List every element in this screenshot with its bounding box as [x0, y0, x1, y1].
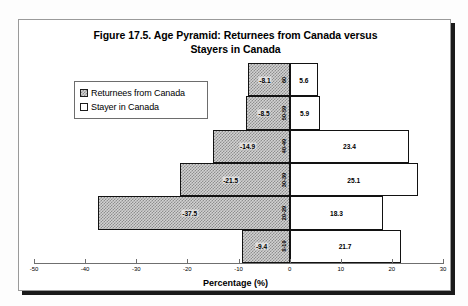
- x-tick-label: 0: [288, 266, 291, 272]
- age-group-label-60: 60: [281, 77, 287, 83]
- legend-item-stayer: Stayer in Canada: [80, 100, 203, 114]
- chart-frame: Figure 17.5. Age Pyramid: Returnees from…: [18, 19, 451, 291]
- x-tick-mark: [85, 259, 86, 264]
- bar-value-returnees-20-29: -37.5: [181, 209, 198, 216]
- x-tick-mark: [341, 259, 342, 264]
- x-tick-mark: [290, 259, 291, 264]
- x-tick-mark: [443, 259, 444, 264]
- bar-value-returnees-50-59: -8.5: [257, 109, 270, 116]
- chart-legend: Returnees from Canada Stayer in Canada: [74, 81, 208, 119]
- bar-value-stayer-20-29: 18.3: [330, 209, 343, 216]
- x-tick-label: -20: [183, 266, 192, 272]
- bar-row: -37.518.320-29: [34, 196, 443, 229]
- x-tick-label: 30: [440, 266, 447, 272]
- bar-value-returnees-60: -8.1: [258, 76, 271, 83]
- age-group-label-0-19: 0-19: [281, 241, 287, 252]
- age-group-label-50-59: 50-59: [281, 106, 287, 120]
- age-group-label-30-39: 30-39: [281, 173, 287, 187]
- x-tick-mark: [187, 259, 188, 264]
- x-tick-label: 20: [389, 266, 396, 272]
- bar-value-stayer-40-49: 23.4: [343, 143, 356, 150]
- age-group-label-40-49: 40-49: [281, 139, 287, 153]
- screenshot-root: Figure 17.5. Age Pyramid: Returnees from…: [0, 0, 468, 306]
- x-tick-label: -10: [234, 266, 243, 272]
- x-tick-mark: [239, 259, 240, 264]
- x-tick-mark: [136, 259, 137, 264]
- chart-title-line-2: Stayers in Canada: [19, 42, 452, 56]
- bar-value-returnees-30-39: -21.5: [222, 176, 239, 183]
- bar-value-stayer-50-59: 5.9: [300, 109, 309, 116]
- bar-row: -9.421.70-19: [34, 230, 443, 263]
- x-axis-title: Percentage (%): [19, 278, 452, 288]
- x-tick-label: -30: [132, 266, 141, 272]
- legend-swatch-icon-returnees: [80, 89, 88, 97]
- bar-value-returnees-0-19: -9.4: [255, 243, 268, 250]
- bar-row: -14.923.440-49: [34, 130, 443, 163]
- chart-title-line-1: Figure 17.5. Age Pyramid: Returnees from…: [19, 28, 452, 42]
- legend-label-returnees: Returnees from Canada: [91, 88, 185, 98]
- bar-value-stayer-30-39: 25.1: [347, 176, 360, 183]
- x-tick-mark: [34, 259, 35, 264]
- chart-title: Figure 17.5. Age Pyramid: Returnees from…: [19, 28, 452, 56]
- legend-item-returnees: Returnees from Canada: [80, 86, 203, 100]
- bar-row: -21.525.130-39: [34, 163, 443, 196]
- bar-value-returnees-40-49: -14.9: [239, 143, 256, 150]
- bar-value-stayer-60: 5.6: [299, 76, 308, 83]
- age-group-label-20-29: 20-29: [281, 206, 287, 220]
- x-tick-label: -40: [81, 266, 90, 272]
- x-tick-label: 10: [337, 266, 344, 272]
- legend-label-stayer: Stayer in Canada: [91, 102, 159, 112]
- x-tick-label: -50: [30, 266, 39, 272]
- bar-value-stayer-0-19: 21.7: [339, 243, 352, 250]
- legend-swatch-icon-stayer: [80, 103, 88, 111]
- x-tick-mark: [392, 259, 393, 264]
